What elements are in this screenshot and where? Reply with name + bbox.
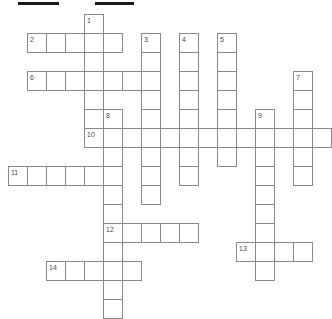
crossword-cell[interactable] [103, 71, 123, 91]
crossword-cell[interactable] [236, 128, 256, 148]
crossword-cell[interactable] [141, 223, 161, 243]
crossword-cell[interactable] [198, 128, 218, 148]
crossword-cell[interactable] [84, 71, 104, 91]
crossword-cell[interactable] [103, 204, 123, 224]
crossword-cell[interactable] [103, 223, 123, 243]
crossword-cell[interactable] [27, 71, 47, 91]
crossword-cell[interactable] [84, 52, 104, 72]
crossword-cell[interactable] [141, 33, 161, 53]
crossword-cell[interactable] [141, 128, 161, 148]
crossword-cell[interactable] [46, 166, 66, 186]
crossword-cell[interactable] [255, 185, 275, 205]
crossword-cell[interactable] [103, 242, 123, 262]
crossword-cell[interactable] [103, 147, 123, 167]
crossword-cell[interactable] [65, 261, 85, 281]
crossword-cell[interactable] [293, 109, 313, 129]
crossword-cell[interactable] [179, 128, 199, 148]
crossword-cell[interactable] [103, 185, 123, 205]
crossword-cell[interactable] [65, 166, 85, 186]
crossword-cell[interactable] [217, 90, 237, 110]
crossword-cell[interactable] [255, 242, 275, 262]
crossword-cell[interactable] [179, 90, 199, 110]
crossword-cell[interactable] [293, 71, 313, 91]
crossword-cell[interactable] [122, 128, 142, 148]
crossword-cell[interactable] [179, 223, 199, 243]
crossword-cell[interactable] [103, 33, 123, 53]
crossword-cell[interactable] [160, 128, 180, 148]
crossword-cell[interactable] [255, 204, 275, 224]
crossword-cell[interactable] [293, 128, 313, 148]
crossword-cell[interactable] [217, 147, 237, 167]
crossword-cell[interactable] [217, 71, 237, 91]
crossword-cell[interactable] [141, 71, 161, 91]
crossword-cell[interactable] [255, 223, 275, 243]
crossword-cell[interactable] [103, 261, 123, 281]
redaction-bar-right [95, 2, 134, 5]
crossword-cell[interactable] [217, 128, 237, 148]
crossword-cell[interactable] [179, 109, 199, 129]
crossword-cell[interactable] [293, 166, 313, 186]
crossword-cell[interactable] [103, 166, 123, 186]
crossword-cell[interactable] [122, 71, 142, 91]
crossword-cell[interactable] [84, 14, 104, 34]
crossword-cell[interactable] [217, 109, 237, 129]
redaction-bar-left [18, 2, 59, 5]
crossword-cell[interactable] [141, 147, 161, 167]
crossword-cell[interactable] [84, 166, 104, 186]
crossword-cell[interactable] [122, 223, 142, 243]
crossword-cell[interactable] [46, 33, 66, 53]
crossword-cell[interactable] [293, 147, 313, 167]
crossword-cell[interactable] [141, 109, 161, 129]
crossword-cell[interactable] [255, 109, 275, 129]
crossword-cell[interactable] [236, 242, 256, 262]
crossword-cell[interactable] [27, 166, 47, 186]
crossword-cell[interactable] [84, 109, 104, 129]
crossword-cell[interactable] [160, 223, 180, 243]
crossword-cell[interactable] [141, 166, 161, 186]
crossword-cell[interactable] [179, 52, 199, 72]
crossword-cell[interactable] [46, 71, 66, 91]
crossword-cell[interactable] [84, 33, 104, 53]
crossword-cell[interactable] [27, 33, 47, 53]
crossword-cell[interactable] [65, 33, 85, 53]
crossword-cell[interactable] [179, 166, 199, 186]
crossword-cell[interactable] [141, 52, 161, 72]
crossword-cell[interactable] [8, 166, 28, 186]
crossword-cell[interactable] [179, 33, 199, 53]
crossword-cell[interactable] [103, 109, 123, 129]
crossword-cell[interactable] [103, 299, 123, 319]
crossword-cell[interactable] [255, 147, 275, 167]
crossword-cell[interactable] [179, 71, 199, 91]
crossword-cell[interactable] [255, 261, 275, 281]
crossword-cell[interactable] [179, 147, 199, 167]
crossword-cell[interactable] [255, 128, 275, 148]
crossword-cell[interactable] [217, 52, 237, 72]
crossword-cell[interactable] [274, 128, 294, 148]
crossword-cell[interactable] [103, 280, 123, 300]
crossword-cell[interactable] [293, 242, 313, 262]
crossword-cell[interactable] [141, 90, 161, 110]
crossword-cell[interactable] [84, 90, 104, 110]
crossword-cell[interactable] [293, 90, 313, 110]
crossword-cell[interactable] [103, 128, 123, 148]
crossword-cell[interactable] [84, 261, 104, 281]
crossword-cell[interactable] [274, 242, 294, 262]
crossword-cell[interactable] [141, 185, 161, 205]
crossword-cell[interactable] [65, 71, 85, 91]
crossword-cell[interactable] [312, 128, 332, 148]
crossword-cell[interactable] [217, 33, 237, 53]
crossword-cell[interactable] [122, 261, 142, 281]
crossword-cell[interactable] [84, 128, 104, 148]
crossword-cell[interactable] [46, 261, 66, 281]
crossword-cell[interactable] [255, 166, 275, 186]
